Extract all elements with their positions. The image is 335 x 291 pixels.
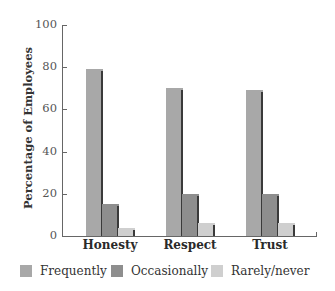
y-tick xyxy=(62,236,67,237)
y-tick xyxy=(62,25,67,26)
y-tick-label: 20 xyxy=(29,186,57,200)
legend-label-frequently: Frequently xyxy=(40,264,107,278)
legend-swatch-frequently xyxy=(20,265,32,277)
legend-swatch-occasionally xyxy=(111,265,123,277)
bar-trust-rarely-never xyxy=(278,223,295,236)
bar-shadow xyxy=(293,225,295,236)
category-label-honesty: Honesty xyxy=(70,238,150,252)
y-tick xyxy=(62,109,67,110)
y-tick xyxy=(62,152,67,153)
legend-item-frequently: Frequently xyxy=(20,264,107,278)
bar-honesty-frequently xyxy=(86,69,103,236)
bar-respect-rarely-never xyxy=(198,223,215,236)
y-tick-label: 80 xyxy=(29,59,57,73)
x-axis-line xyxy=(62,236,317,237)
x-axis-end-tick xyxy=(316,232,317,237)
bar-respect-occasionally xyxy=(182,194,199,236)
category-label-trust: Trust xyxy=(230,238,310,252)
y-axis-line xyxy=(62,25,63,236)
bar-honesty-occasionally xyxy=(102,204,119,236)
legend-item-occasionally: Occasionally xyxy=(111,264,208,278)
category-label-respect: Respect xyxy=(150,238,230,252)
y-tick-label: 100 xyxy=(29,17,57,31)
bar-honesty-rarely-never xyxy=(118,228,135,236)
y-tick-label: 40 xyxy=(29,144,57,158)
legend-label-rarely-never: Rarely/never xyxy=(231,264,309,278)
bar-trust-occasionally xyxy=(262,194,279,236)
legend-item-rarely-never: Rarely/never xyxy=(211,264,309,278)
y-tick xyxy=(62,194,67,195)
bar-respect-frequently xyxy=(166,88,183,236)
y-tick-label: 0 xyxy=(29,228,57,242)
bar-shadow xyxy=(213,225,215,236)
bar-shadow xyxy=(133,230,135,236)
legend-swatch-rarely-never xyxy=(211,265,223,277)
legend-label-occasionally: Occasionally xyxy=(131,264,208,278)
bar-trust-frequently xyxy=(246,90,263,236)
y-tick xyxy=(62,67,67,68)
y-tick-label: 60 xyxy=(29,101,57,115)
